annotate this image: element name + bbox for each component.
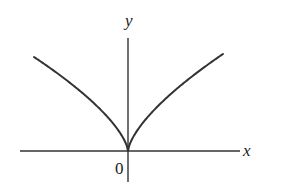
y-axis-label: y xyxy=(123,11,133,30)
x-axis-label: x xyxy=(242,141,251,160)
cusp-curve-diagram: y x 0 xyxy=(0,0,281,188)
origin-label: 0 xyxy=(115,159,124,178)
